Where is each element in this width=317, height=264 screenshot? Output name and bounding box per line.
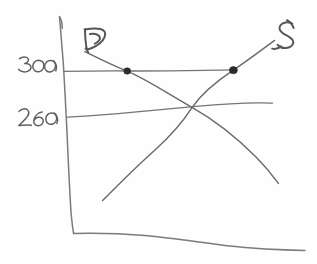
quantity-supplied-point (229, 67, 237, 74)
supply-demand-diagram (0, 0, 317, 264)
paper-background (0, 0, 317, 264)
quantity-demanded-point (124, 68, 131, 74)
sketch-canvas: Hand-drawn supply and demand diagram D S… (0, 0, 317, 264)
